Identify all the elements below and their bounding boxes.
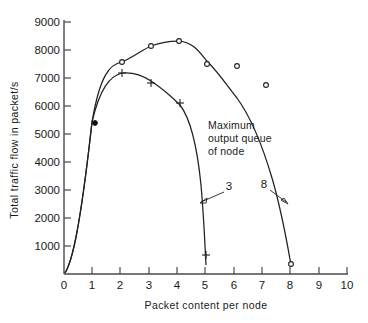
y-tick-label-3000: 3000 [34,184,60,196]
y-tick-label-1000: 1000 [34,240,60,252]
markers-series-3 [118,69,210,259]
y-tick-label-9000: 9000 [34,16,60,28]
data-point-open [177,39,182,44]
y-ticks-group: 1000 2000 3000 4000 5000 6000 7000 8000 … [34,16,71,252]
note-line-1: Maximum [208,119,255,131]
data-point-open [149,44,154,49]
x-tick-label-5: 5 [202,279,208,291]
x-tick-label-9: 9 [316,279,322,291]
x-tick-label-4: 4 [174,279,181,291]
note-line-3: of node [208,145,244,157]
curve-label-3: 3 [226,180,232,192]
x-ticks-group: 0 1 2 3 4 5 6 7 8 9 10 [61,267,354,291]
chart-container: 1000 2000 3000 4000 5000 6000 7000 8000 … [0,0,368,323]
y-tick-label-2000: 2000 [34,212,60,224]
data-point-open [289,262,294,267]
y-tick-label-4000: 4000 [34,156,60,168]
x-axis-title: Packet content per node [144,299,267,311]
x-tick-label-3: 3 [146,279,152,291]
y-tick-label-6000: 6000 [34,100,60,112]
curve-label-8-group: 8 [261,178,288,204]
x-tick-label-0: 0 [61,279,67,291]
x-tick-label-1: 1 [89,279,95,291]
data-point-filled [93,121,98,126]
data-point-open [235,64,240,69]
y-tick-label-5000: 5000 [34,128,60,140]
data-point-plus [147,79,155,87]
x-tick-label-2: 2 [117,279,123,291]
data-point-open [120,60,125,65]
x-tick-label-10: 10 [341,279,354,291]
x-tick-label-8: 8 [287,279,293,291]
maximum-output-queue-note: Maximum output queue of node [208,119,272,157]
leader-line-3 [201,192,224,202]
y-tick-label-8000: 8000 [34,44,60,56]
data-point-open [264,83,269,88]
curve-label-8: 8 [261,178,267,190]
note-line-2: output queue [208,132,272,144]
axes-group [64,20,348,274]
x-tick-label-7: 7 [259,279,265,291]
leader-arrow-3 [200,198,207,203]
data-point-plus [118,69,126,77]
data-point-plus [176,99,184,107]
curve-series-8 [65,41,291,273]
curve-series-3 [65,73,206,273]
curve-label-3-group: 3 [200,180,232,203]
data-point-open [205,62,210,67]
data-point-plus [202,251,210,259]
x-tick-label-6: 6 [231,279,237,291]
chart-svg: 1000 2000 3000 4000 5000 6000 7000 8000 … [0,0,368,323]
y-tick-label-7000: 7000 [34,72,60,84]
y-axis-title: Total traffic flow in packet/s [8,81,20,218]
